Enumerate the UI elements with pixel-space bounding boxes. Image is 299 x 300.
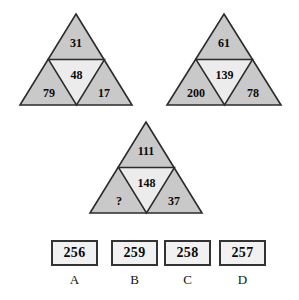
answer-options: 256 A 259 B 258 C 257 D [0, 240, 299, 300]
triangle-2-top-value: 61 [218, 36, 230, 50]
triangle-3: 111 148 ? 37 [89, 121, 205, 215]
triangle-3-bottom-right-value: 37 [168, 194, 180, 208]
answer-option-a[interactable]: 256 A [51, 240, 98, 288]
answer-value-a[interactable]: 256 [51, 240, 98, 266]
triangle-2-bottom-right-value: 78 [247, 86, 259, 100]
answer-letter-a: A [51, 272, 98, 288]
puzzle-figure: 31 48 79 17 61 139 200 78 111 148 ? 37 [0, 0, 299, 300]
triangle-3-top-value: 111 [138, 144, 155, 158]
triangle-1-bottom-left-value: 79 [43, 86, 55, 100]
answer-value-b[interactable]: 259 [111, 240, 158, 266]
answer-letter-d: D [219, 272, 266, 288]
answer-option-c[interactable]: 258 C [164, 240, 211, 288]
triangle-2-center-value: 139 [216, 68, 234, 82]
triangle-2: 61 139 200 78 [166, 13, 284, 107]
answer-option-b[interactable]: 259 B [111, 240, 158, 288]
triangle-3-bottom-left-value: ? [116, 194, 122, 208]
triangle-1-top-value: 31 [70, 36, 82, 50]
answer-option-d[interactable]: 257 D [219, 240, 266, 288]
answer-letter-c: C [164, 272, 211, 288]
triangle-1-bottom-right-value: 17 [98, 86, 110, 100]
triangle-3-center-value: 148 [138, 176, 156, 190]
triangle-2-bottom-left-value: 200 [187, 86, 205, 100]
answer-letter-b: B [111, 272, 158, 288]
triangle-1-center-value: 48 [71, 68, 83, 82]
triangle-1: 31 48 79 17 [19, 13, 135, 107]
answer-value-c[interactable]: 258 [164, 240, 211, 266]
answer-value-d[interactable]: 257 [219, 240, 266, 266]
